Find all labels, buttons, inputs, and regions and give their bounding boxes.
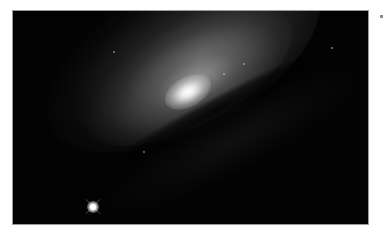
star-speck bbox=[143, 151, 145, 153]
star-speck bbox=[113, 51, 115, 53]
galaxy-photo bbox=[12, 10, 369, 225]
corner-mark bbox=[380, 15, 383, 18]
star-cluster-speck bbox=[223, 73, 225, 75]
star-speck bbox=[331, 47, 333, 49]
foreground-star bbox=[87, 201, 99, 213]
star-cluster-speck bbox=[243, 63, 245, 65]
